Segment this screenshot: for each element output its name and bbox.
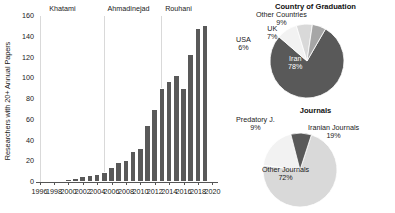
journals-pie-title: Journals (236, 106, 395, 115)
y-tick-label: 80 (26, 95, 34, 102)
bar (137, 148, 144, 182)
bar (123, 160, 130, 182)
pie-slice-percent: 6% (236, 44, 251, 52)
bar (187, 54, 194, 182)
x-tick-mark (97, 182, 98, 185)
y-tick-label: 40 (26, 137, 34, 144)
country-pie-svg (267, 21, 347, 101)
y-tick-label: 160 (22, 12, 34, 19)
bar-plot-area: KhatamiAhmadinejadRouhani (36, 16, 216, 182)
x-tick-mark (212, 182, 213, 185)
pie-slice-label: USA6% (236, 36, 251, 53)
x-tick-mark (83, 182, 84, 185)
x-axis-line (36, 182, 218, 183)
country-of-graduation-pie-panel: Country of Graduation Iran78%Other Count… (236, 0, 395, 104)
pie-slice-label: Predatory J.9% (236, 116, 275, 133)
pie-slice-label: Other Countries9% (256, 11, 307, 28)
era-label: Rouhani (165, 4, 192, 13)
y-tick-label: 0 (30, 178, 34, 185)
pie-slice-label: UK7% (267, 25, 277, 42)
figure-root: Researchers with 20+ Annual Papers 02040… (0, 0, 395, 213)
journals-pie-panel: Journals Other Journals72%Iranian Journa… (236, 104, 395, 213)
bar (166, 81, 173, 182)
pie-slice-percent: 9% (256, 19, 307, 27)
bar (115, 162, 122, 182)
y-tick-label: 60 (26, 116, 34, 123)
bar (87, 175, 94, 182)
y-tick-label: 120 (22, 54, 34, 61)
bar (173, 75, 180, 182)
y-tick-label: 100 (22, 75, 34, 82)
bar (144, 125, 151, 182)
bar-plot-inner: KhatamiAhmadinejadRouhani (36, 16, 216, 182)
pie-slice-percent: 78% (288, 63, 302, 71)
era-label: Khatami (49, 4, 75, 13)
bar (101, 172, 108, 182)
x-tick-mark (112, 182, 113, 185)
x-tick-label: 2020 (204, 187, 220, 196)
pie-slice-percent: 19% (308, 132, 359, 140)
pie-slice-percent: 72% (262, 174, 309, 182)
y-tick-label: 140 (22, 33, 34, 40)
pie-slice-label: Iranian Journals19% (308, 124, 359, 141)
bar (130, 151, 137, 182)
pie-slice-label: Other Journals72% (262, 166, 309, 183)
era-label: Ahmadinejad (108, 4, 150, 13)
y-axis-tick-labels: 020406080100120140160 (12, 16, 34, 182)
x-tick-mark (140, 182, 141, 185)
bar (195, 28, 202, 182)
era-divider (104, 16, 105, 182)
pie-slice-percent: 9% (236, 124, 275, 132)
x-tick-mark (198, 182, 199, 185)
x-tick-mark (54, 182, 55, 185)
pie-slice-percent: 7% (267, 33, 277, 41)
x-tick-mark (155, 182, 156, 185)
bar (108, 167, 115, 182)
bar (202, 25, 209, 182)
bar-chart-panel: Researchers with 20+ Annual Papers 02040… (0, 0, 232, 213)
bar (159, 88, 166, 182)
bar (180, 88, 187, 182)
x-tick-mark (68, 182, 69, 185)
era-divider (40, 16, 41, 182)
pie-slice-label: Iran78% (288, 55, 302, 72)
x-tick-mark (126, 182, 127, 185)
y-tick-label: 20 (26, 158, 34, 165)
x-tick-mark (184, 182, 185, 185)
bar (94, 174, 101, 182)
x-tick-mark (169, 182, 170, 185)
bar (151, 109, 158, 182)
x-tick-mark (40, 182, 41, 185)
